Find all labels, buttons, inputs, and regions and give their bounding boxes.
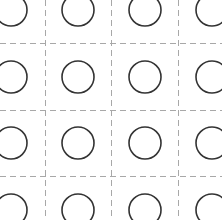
circle-r2-c3 — [129, 61, 161, 93]
circle-r4-c3 — [129, 194, 161, 220]
circle-r1-c1 — [0, 0, 27, 26]
circle-r1-c4 — [196, 0, 222, 26]
circle-r4-c2 — [62, 194, 94, 220]
circle-r2-c4 — [196, 61, 222, 93]
circle-r3-c3 — [129, 127, 161, 159]
circle-r3-c2 — [62, 127, 94, 159]
circle-r4-c1 — [0, 194, 27, 220]
circle-r1-c2 — [62, 0, 94, 26]
circle-r2-c2 — [62, 61, 94, 93]
circle-r2-c1 — [0, 61, 27, 93]
dashed-grid-lines — [0, 0, 222, 220]
circle-r1-c3 — [129, 0, 161, 26]
circle-r3-c4 — [196, 127, 222, 159]
circle-grid-pattern — [0, 0, 222, 220]
circle-r3-c1 — [0, 127, 27, 159]
circle-r4-c4 — [196, 194, 222, 220]
